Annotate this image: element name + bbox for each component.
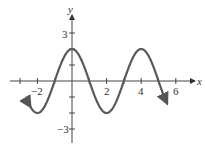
y-tick-label-3: 3 (62, 28, 68, 40)
cosine-graph: x y −2 2 4 6 3 −3 (0, 0, 205, 146)
x-tick-label-2: 2 (104, 85, 110, 97)
y-tick-label-neg3: −3 (57, 123, 69, 135)
x-tick-label-neg2: −2 (31, 85, 43, 97)
x-tick-label-4: 4 (138, 85, 144, 97)
x-tick-label-6: 6 (173, 85, 179, 97)
x-axis-label: x (196, 75, 202, 87)
y-axis-label: y (67, 3, 73, 15)
